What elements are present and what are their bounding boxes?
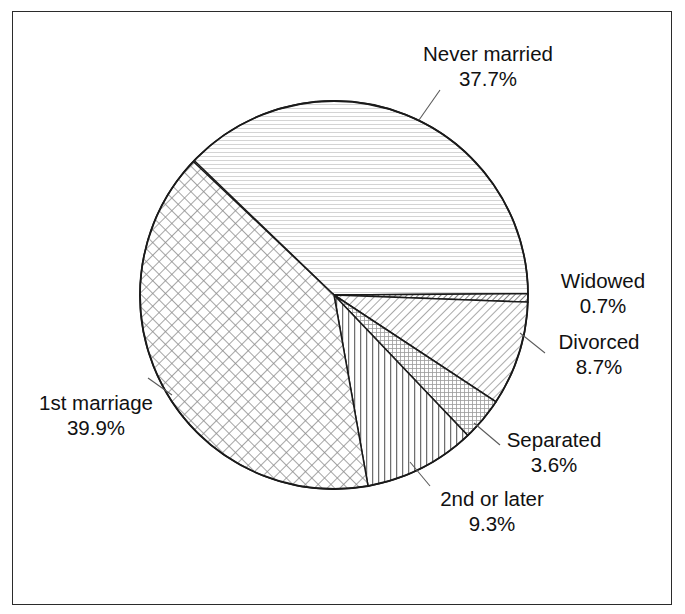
slice-label-first-marriage-value: 39.9% [6,415,186,440]
slice-label-separated-name: Separated [474,427,634,452]
slice-label-separated: Separated 3.6% [474,427,634,477]
slice-label-divorced: Divorced 8.7% [524,329,674,379]
slice-label-widowed-name: Widowed [530,268,676,293]
slice-label-separated-value: 3.6% [474,452,634,477]
slice-label-first-marriage: 1st marriage 39.9% [6,390,186,440]
slice-label-second-or-later-value: 9.3% [402,511,582,536]
slice-label-never-married-value: 37.7% [388,66,588,91]
slice-label-second-or-later-name: 2nd or later [402,486,582,511]
slice-label-divorced-value: 8.7% [524,354,674,379]
slice-label-second-or-later: 2nd or later 9.3% [402,486,582,536]
slice-label-divorced-name: Divorced [524,329,674,354]
slice-label-widowed: Widowed 0.7% [530,268,676,318]
slice-label-widowed-value: 0.7% [530,293,676,318]
slice-label-first-marriage-name: 1st marriage [6,390,186,415]
pie-slices [140,101,528,489]
pie-chart-figure: Never married 37.7% Widowed 0.7% Divorce… [0,0,685,614]
leader-never-married [419,90,440,120]
slice-label-never-married: Never married 37.7% [388,41,588,91]
slice-label-never-married-name: Never married [388,41,588,66]
